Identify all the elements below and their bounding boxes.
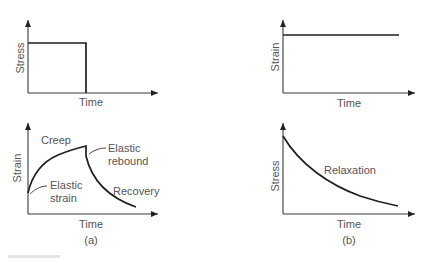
relaxation-label: Relaxation bbox=[324, 164, 376, 176]
elastic-strain-leader bbox=[30, 186, 47, 194]
x-axis-label: Time bbox=[337, 97, 361, 109]
x-axis-label: Time bbox=[79, 96, 103, 108]
panel-caption: (b) bbox=[342, 234, 355, 246]
panel-caption: (a) bbox=[84, 234, 97, 246]
y-axis-label: Strain bbox=[269, 43, 281, 72]
elastic-rebound-leader bbox=[89, 148, 106, 154]
y-axis-label: Strain bbox=[11, 154, 23, 183]
cropped-caption-artifact bbox=[8, 255, 60, 258]
panel-b-stress-plot: Stress Relaxation Time (b) bbox=[269, 123, 415, 246]
panel-b-strain-plot: Strain Time bbox=[269, 20, 415, 109]
elastic-strain-label-2: strain bbox=[50, 192, 77, 204]
panel-a-strain-plot: Strain Time Creep Elastic rebound Elasti… bbox=[11, 123, 160, 246]
panel-a-stress-plot: Stress Time bbox=[14, 20, 158, 108]
x-axis-label: Time bbox=[337, 218, 361, 230]
y-axis-label: Stress bbox=[14, 42, 26, 74]
creep-label: Creep bbox=[41, 134, 71, 146]
elastic-rebound-label-1: Elastic bbox=[108, 142, 141, 154]
x-axis-label: Time bbox=[79, 218, 103, 230]
viscoelastic-diagram: Stress Time Strain Time Creep Elastic re… bbox=[0, 0, 426, 259]
elastic-rebound-label-2: rebound bbox=[108, 155, 148, 167]
recovery-label: Recovery bbox=[113, 185, 160, 197]
elastic-strain-label-1: Elastic bbox=[50, 179, 83, 191]
y-axis-label: Stress bbox=[269, 160, 281, 192]
stress-step-curve bbox=[28, 43, 86, 93]
